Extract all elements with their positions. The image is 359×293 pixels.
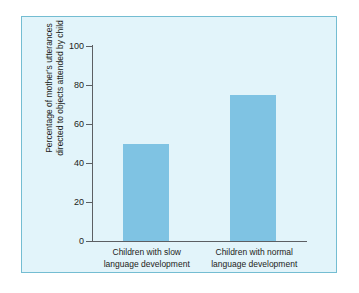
y-tick-label-60: 60 — [44, 120, 84, 129]
x-label-0-line-1: Children with slow — [93, 247, 201, 259]
y-tick-label-100: 100 — [44, 42, 84, 51]
y-tick-label-40: 40 — [44, 159, 84, 168]
x-label-1-line-1: Children with normal — [201, 247, 309, 259]
y-tick-label-80: 80 — [44, 81, 84, 90]
chart-panel: Percentage of mother's utterances direct… — [21, 16, 337, 273]
x-label-slow-language-development: Children with slow language development — [93, 247, 201, 277]
figure-root: Percentage of mother's utterances direct… — [0, 0, 359, 293]
x-label-normal-language-development: Children with normal language developmen… — [201, 247, 309, 277]
x-label-1-line-2: language development — [201, 259, 309, 271]
bars-layer — [93, 46, 306, 241]
x-axis-line — [92, 241, 307, 242]
bar-slow-language-development[interactable] — [123, 144, 169, 242]
x-label-0-line-2: language development — [93, 259, 201, 271]
y-tick-label-0: 0 — [44, 237, 84, 246]
y-axis-tick-labels: 100 80 60 40 20 0 — [36, 17, 84, 274]
bar-normal-language-development[interactable] — [230, 95, 276, 241]
x-axis-category-labels: Children with slow language development … — [93, 247, 308, 277]
y-tick-label-20: 20 — [44, 198, 84, 207]
